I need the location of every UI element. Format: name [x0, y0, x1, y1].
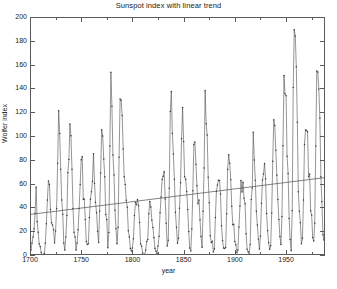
x-tick: [235, 250, 236, 255]
x-tick-minor-top: [312, 17, 313, 20]
x-tick-minor-top: [158, 17, 159, 20]
x-tick: [132, 250, 133, 255]
y-tick-right: [320, 112, 325, 113]
y-tick-label: 160: [0, 61, 27, 68]
y-tick-right: [320, 184, 325, 185]
x-tick: [30, 250, 31, 255]
chart-title: Sunspot index with linear trend: [0, 1, 337, 10]
x-tick-minor: [209, 252, 210, 255]
x-tick-minor-top: [260, 17, 261, 20]
y-tick-right: [320, 207, 325, 208]
y-tick: [30, 41, 35, 42]
y-tick: [30, 231, 35, 232]
x-tick-top: [184, 17, 185, 22]
y-tick-right: [320, 65, 325, 66]
y-tick-label: 20: [0, 227, 27, 234]
x-tick-minor: [56, 252, 57, 255]
x-tick-minor-top: [209, 17, 210, 20]
y-tick-right: [320, 255, 325, 256]
x-tick-label: 1950: [266, 256, 306, 263]
plot-area: [30, 17, 325, 255]
x-tick-label: 1750: [61, 256, 101, 263]
x-tick-label: 1800: [112, 256, 152, 263]
y-tick: [30, 184, 35, 185]
y-tick: [30, 88, 35, 89]
x-axis-title: year: [0, 267, 337, 274]
y-tick: [30, 65, 35, 66]
y-tick-right: [320, 88, 325, 89]
plot-canvas: [31, 18, 325, 255]
y-tick-right: [320, 231, 325, 232]
x-tick-minor: [158, 252, 159, 255]
y-tick: [30, 136, 35, 137]
y-tick-right: [320, 136, 325, 137]
y-tick-right: [320, 160, 325, 161]
y-tick-label: 40: [0, 203, 27, 210]
y-tick-label: 180: [0, 37, 27, 44]
x-tick-label: 1900: [215, 256, 255, 263]
sunspot-series-line: [31, 30, 325, 255]
y-tick: [30, 160, 35, 161]
x-tick-minor-top: [56, 17, 57, 20]
y-tick-label: 200: [0, 13, 27, 20]
y-tick-label: 80: [0, 156, 27, 163]
x-tick: [286, 250, 287, 255]
x-tick: [184, 250, 185, 255]
y-tick-right: [320, 41, 325, 42]
sunspot-series-markers: [31, 29, 325, 255]
y-tick-label: 60: [0, 180, 27, 187]
y-tick-label: 140: [0, 84, 27, 91]
x-tick: [81, 250, 82, 255]
x-tick-top: [30, 17, 31, 22]
x-tick-minor: [260, 252, 261, 255]
x-tick-minor: [312, 252, 313, 255]
x-tick-top: [235, 17, 236, 22]
x-tick-top: [286, 17, 287, 22]
series-line-group: [31, 29, 325, 255]
linear-trend-line: [31, 177, 325, 214]
x-tick-label: 1700: [10, 256, 50, 263]
x-tick-top: [132, 17, 133, 22]
y-tick: [30, 207, 35, 208]
x-tick-minor-top: [107, 17, 108, 20]
chart-figure: Sunspot index with linear trend 02040608…: [0, 0, 337, 289]
x-tick-label: 1850: [164, 256, 204, 263]
x-tick-top: [81, 17, 82, 22]
y-axis-title: Wolfer index: [1, 94, 8, 154]
y-tick-right: [320, 17, 325, 18]
y-tick: [30, 112, 35, 113]
x-tick-minor: [107, 252, 108, 255]
